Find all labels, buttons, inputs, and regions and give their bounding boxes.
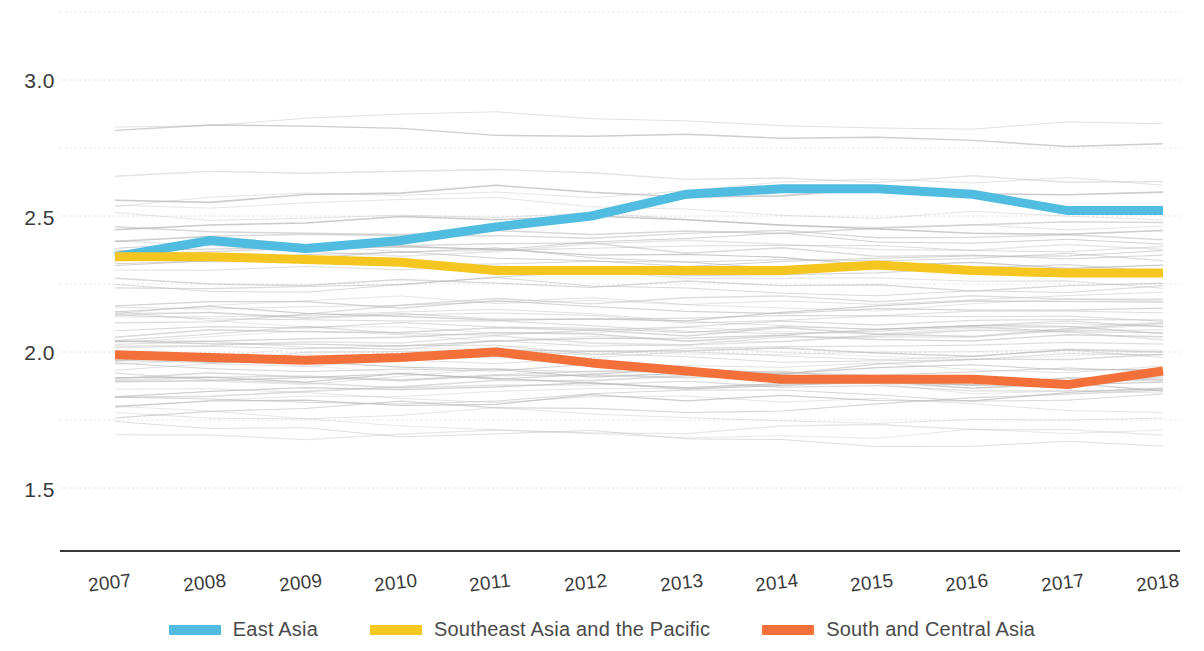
background-line	[115, 213, 1163, 230]
background-line	[115, 125, 1163, 147]
legend-item-south-central-asia[interactable]: South and Central Asia	[762, 618, 1035, 641]
legend-label-east-asia: East Asia	[233, 618, 318, 641]
background-line	[115, 390, 1163, 418]
legend-swatch-southeast-asia-pacific	[370, 625, 422, 635]
chart-legend: East Asia Southeast Asia and the Pacific…	[0, 618, 1204, 641]
legend-swatch-south-central-asia	[762, 625, 814, 635]
gridlines	[60, 12, 1180, 488]
background-line	[115, 278, 1163, 291]
background-line	[115, 425, 1163, 440]
line-chart: 3.0 2.5 2.0 1.5 200720082009201020112012…	[0, 0, 1204, 651]
series-line-south-and-central-asia	[115, 352, 1163, 385]
legend-item-southeast-asia-pacific[interactable]: Southeast Asia and the Pacific	[370, 618, 710, 641]
legend-swatch-east-asia	[169, 625, 221, 635]
plot-area	[0, 0, 1204, 651]
background-line	[115, 112, 1163, 129]
legend-label-south-central-asia: South and Central Asia	[826, 618, 1035, 641]
background-country-lines	[115, 112, 1163, 447]
series-line-east-asia	[115, 189, 1163, 257]
background-line	[115, 422, 1163, 447]
legend-item-east-asia[interactable]: East Asia	[169, 618, 318, 641]
legend-label-southeast-asia-pacific: Southeast Asia and the Pacific	[434, 618, 710, 641]
background-line	[115, 170, 1163, 183]
